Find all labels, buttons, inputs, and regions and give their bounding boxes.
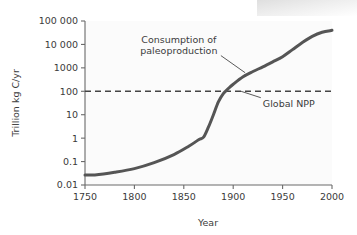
y-axis-title: Trillion kg C/yr — [10, 69, 21, 138]
log-line-chart: 0.010.1110100100010 000100 000 175018001… — [0, 0, 357, 235]
figure-container: 0.010.1110100100010 000100 000 175018001… — [0, 0, 357, 235]
y-tick-label: 10 — [66, 109, 78, 120]
x-tick-label: 1850 — [172, 191, 196, 202]
annotation-global-npp: Global NPP — [263, 98, 315, 109]
x-tick-label: 1900 — [221, 191, 245, 202]
x-tick-label: 1950 — [271, 191, 295, 202]
annotation-consumption-of-paleoproduction: Consumption ofpaleoproduction — [140, 34, 217, 56]
y-axis-ticks — [81, 21, 85, 185]
y-tick-label: 1 — [72, 133, 78, 144]
y-axis-tick-labels: 0.010.1110100100010 000100 000 — [39, 15, 78, 190]
y-tick-label: 0.01 — [57, 179, 78, 190]
y-tick-label: 1000 — [54, 62, 78, 73]
x-axis-tick-labels: 175018001850190019502000 — [73, 191, 344, 202]
y-tick-label: 100 — [60, 86, 78, 97]
x-axis-ticks — [85, 185, 332, 189]
y-tick-label: 0.1 — [63, 156, 78, 167]
y-tick-label: 100 000 — [39, 15, 78, 26]
x-tick-label: 2000 — [320, 191, 344, 202]
x-axis-title: Year — [197, 217, 218, 228]
x-tick-label: 1800 — [122, 191, 146, 202]
y-tick-label: 10 000 — [45, 39, 78, 50]
x-tick-label: 1750 — [73, 191, 97, 202]
